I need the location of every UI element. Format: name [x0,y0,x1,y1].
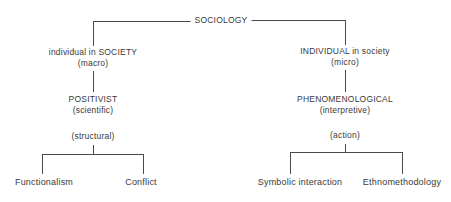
node-structural: (structural) [71,131,114,142]
root-label: SOCIOLOGY [195,15,248,25]
left-drop-line [93,21,94,46]
node-individual-in-society-micro: INDIVIDUAL in society (micro) [300,46,389,68]
node-label-line1: PHENOMENOLOGICAL [297,94,393,105]
left-macro-to-positivist-line [93,71,94,92]
node-label-line2: (scientific) [69,105,118,116]
node-label-line2: (micro) [300,57,389,68]
right-drop-line [345,20,346,45]
root-node-sociology: SOCIOLOGY [191,15,252,26]
node-phenomenological: PHENOMENOLOGICAL (interpretive) [297,94,393,116]
leaf-label: Symbolic interaction [258,177,343,187]
node-action: (action) [330,130,360,141]
node-label-line1: POSITIVIST [69,94,118,105]
leaf-label: Functionalism [15,177,73,187]
root-right-connector [245,20,346,21]
leaf-symbolic-interaction: Symbolic interaction [258,177,343,188]
left-branch-left-leg [42,154,43,174]
node-label-line2: (macro) [49,58,137,69]
right-branch-stem [345,144,346,152]
right-branch-bar [290,152,403,153]
node-positivist: POSITIVIST (scientific) [69,94,118,116]
node-individual-in-society-macro: individual in SOCIETY (macro) [49,47,137,69]
leaf-label: Conflict [125,177,157,187]
root-left-connector [93,21,196,22]
node-label-line1: INDIVIDUAL in society [300,46,389,57]
left-branch-right-leg [143,154,144,174]
node-label-line1: individual in SOCIETY [49,47,137,58]
left-branch-bar [42,154,144,155]
leaf-label: Ethnomethodology [363,177,441,187]
right-branch-left-leg [290,152,291,174]
right-micro-to-phenomenological-line [345,70,346,92]
left-branch-stem [93,145,94,154]
right-branch-right-leg [402,152,403,174]
leaf-functionalism: Functionalism [15,177,73,188]
leaf-conflict: Conflict [125,177,157,188]
leaf-ethnomethodology: Ethnomethodology [363,177,441,188]
node-label-line1: (structural) [71,131,114,142]
node-label-line1: (action) [330,130,360,141]
node-label-line2: (interpretive) [297,105,393,116]
